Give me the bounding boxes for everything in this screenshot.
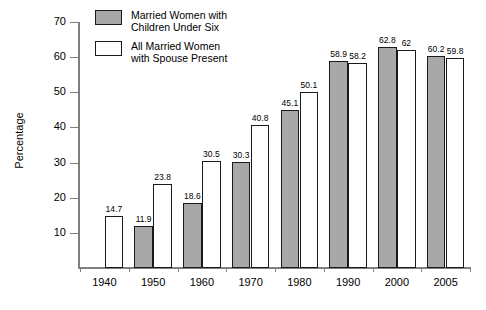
y-tick-10 xyxy=(70,233,78,234)
x-axis-label-1990: 1990 xyxy=(324,276,373,288)
x-tick-1940 xyxy=(80,267,81,272)
y-tick-label-60: 60 xyxy=(40,51,66,62)
y-tick-label-10: 10 xyxy=(40,227,66,238)
y-tick-20 xyxy=(70,198,78,199)
bar-1990-series-1 xyxy=(329,61,348,268)
y-tick-label-30: 30 xyxy=(40,157,66,168)
x-tick-2000 xyxy=(373,267,374,272)
x-axis-label-1970: 1970 xyxy=(226,276,275,288)
x-tick-1960 xyxy=(178,267,179,272)
bar-1970-series-2 xyxy=(251,125,270,268)
y-tick-50 xyxy=(70,92,78,93)
x-axis-label-2005: 2005 xyxy=(421,276,470,288)
x-tick-1970 xyxy=(226,267,227,272)
plot-area: 14.711.923.818.630.530.340.845.150.158.9… xyxy=(80,22,470,268)
bar-1970-series-1 xyxy=(232,162,251,268)
x-axis-label-2000: 2000 xyxy=(373,276,422,288)
bar-1960-series-1 xyxy=(183,203,202,268)
y-tick-60 xyxy=(70,57,78,58)
bar-2000-series-2 xyxy=(397,50,416,268)
bar-2005-series-2 xyxy=(446,58,465,268)
y-tick-label-50: 50 xyxy=(40,86,66,97)
bar-2000-series-1 xyxy=(378,47,397,268)
y-tick-40 xyxy=(70,127,78,128)
bar-1990-series-2 xyxy=(348,63,367,268)
bar-value-label-1940-series-2: 14.7 xyxy=(100,205,129,214)
x-tick-1980 xyxy=(275,267,276,272)
bar-chart: Married Women with Children Under Six Al… xyxy=(0,0,486,310)
x-axis-label-1960: 1960 xyxy=(178,276,227,288)
bar-value-label-1980-series-2: 50.1 xyxy=(295,81,324,90)
y-axis-title: Percentage xyxy=(14,96,25,186)
x-tick-end xyxy=(470,267,471,272)
bar-2005-series-1 xyxy=(427,56,446,268)
legend-label-1-line1: Married Women with xyxy=(131,9,227,21)
y-tick-label-70: 70 xyxy=(40,16,66,27)
bar-1980-series-1 xyxy=(281,110,300,268)
x-tick-2005 xyxy=(421,267,422,272)
bar-1960-series-2 xyxy=(202,161,221,268)
y-tick-label-40: 40 xyxy=(40,121,66,132)
bar-1950-series-2 xyxy=(153,184,172,268)
x-axis-label-1940: 1940 xyxy=(80,276,129,288)
bar-value-label-1950-series-2: 23.8 xyxy=(148,173,177,182)
x-axis-label-1980: 1980 xyxy=(275,276,324,288)
y-tick-70 xyxy=(70,22,78,23)
bar-value-label-1970-series-2: 40.8 xyxy=(246,114,275,123)
x-tick-1990 xyxy=(324,267,325,272)
bar-1950-series-1 xyxy=(134,226,153,268)
bar-value-label-1960-series-2: 30.5 xyxy=(197,150,226,159)
bar-value-label-1990-series-2: 58.2 xyxy=(343,52,372,61)
y-tick-30 xyxy=(70,163,78,164)
bar-1940-series-2 xyxy=(105,216,124,268)
bar-value-label-2005-series-2: 59.8 xyxy=(441,47,470,56)
bar-1980-series-2 xyxy=(300,92,319,268)
x-axis-label-1950: 1950 xyxy=(129,276,178,288)
y-tick-label-20: 20 xyxy=(40,192,66,203)
bar-value-label-2000-series-2: 62 xyxy=(392,39,421,48)
x-tick-1950 xyxy=(129,267,130,272)
